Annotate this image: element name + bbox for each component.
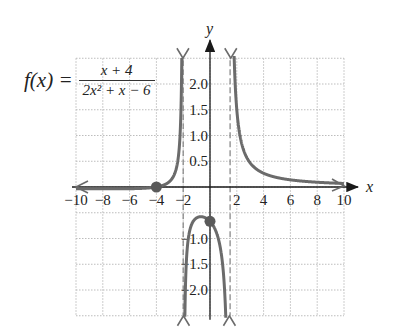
x-tick-label: −8 bbox=[95, 192, 111, 208]
x-tick-label: −10 bbox=[64, 192, 87, 208]
x-tick-label: 6 bbox=[287, 192, 295, 208]
x-tick-label: 10 bbox=[337, 192, 352, 208]
curve-branch-right bbox=[234, 56, 344, 183]
formula-denominator: 2x² + x − 6 bbox=[79, 80, 155, 99]
formula-fraction: x + 4 2x² + x − 6 bbox=[79, 62, 155, 99]
x-tick-label: −6 bbox=[122, 192, 138, 208]
x-tick-label: 2 bbox=[233, 192, 241, 208]
y-tick-label: 1.5 bbox=[189, 102, 208, 118]
x-tick-label: 4 bbox=[260, 192, 268, 208]
formula-lhs: f(x) = bbox=[24, 68, 73, 93]
x-tick-label: −2 bbox=[175, 192, 191, 208]
y-tick-label: 0.5 bbox=[189, 153, 208, 169]
formula-numerator: x + 4 bbox=[97, 62, 137, 80]
y-intercept-point bbox=[205, 216, 216, 227]
y-tick-label: −1.0 bbox=[181, 231, 208, 247]
y-tick-label: 1.0 bbox=[189, 128, 208, 144]
x-tick-label: 8 bbox=[313, 192, 321, 208]
x-tick-label: −4 bbox=[148, 192, 164, 208]
function-formula: f(x) = x + 4 2x² + x − 6 bbox=[24, 62, 155, 99]
x-intercept-point bbox=[151, 182, 162, 193]
function-graph: xy−10−8−6−4−22468102.01.51.00.5−1.0−1.5−… bbox=[0, 0, 398, 336]
right-end-arrow bbox=[332, 179, 344, 191]
x-axis-label: x bbox=[365, 178, 373, 195]
y-tick-label: 2.0 bbox=[189, 76, 208, 92]
y-axis-label: y bbox=[204, 20, 214, 38]
